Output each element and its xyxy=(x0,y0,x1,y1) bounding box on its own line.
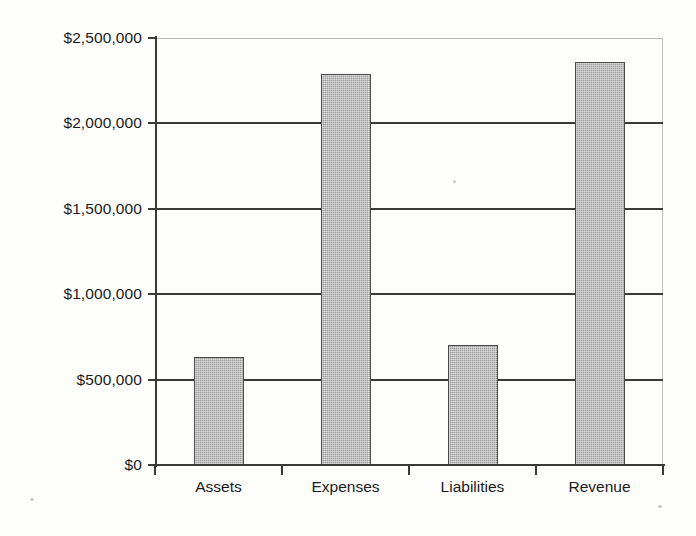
bar-expenses xyxy=(321,74,371,465)
x-tick-label-assets: Assets xyxy=(155,478,282,496)
scan-speck xyxy=(30,498,34,501)
scan-speck xyxy=(658,505,662,508)
y-tick-label: $1,000,000 xyxy=(22,285,142,303)
x-tick-0 xyxy=(154,466,156,475)
x-tick-label-expenses: Expenses xyxy=(282,478,409,496)
y-axis-line xyxy=(155,36,157,467)
plot-area xyxy=(155,38,663,465)
y-tick-label: $0 xyxy=(22,456,142,474)
bar-assets xyxy=(194,357,244,465)
bar-revenue xyxy=(575,62,625,465)
x-tick-label-revenue: Revenue xyxy=(536,478,663,496)
plot-frame-top xyxy=(155,38,663,39)
y-tick-2000000 xyxy=(148,122,157,124)
y-tick-label: $2,500,000 xyxy=(22,29,142,47)
y-tick-label: $1,500,000 xyxy=(22,200,142,218)
x-tick-3 xyxy=(535,466,537,475)
x-tick-label-liabilities: Liabilities xyxy=(409,478,536,496)
y-tick-label: $500,000 xyxy=(22,371,142,389)
x-tick-1 xyxy=(281,466,283,475)
x-tick-2 xyxy=(408,466,410,475)
chart-canvas: $0$500,000$1,000,000$1,500,000$2,000,000… xyxy=(0,0,696,536)
plot-frame-right xyxy=(662,38,663,465)
y-tick-2500000 xyxy=(148,37,157,39)
y-tick-1500000 xyxy=(148,208,157,210)
y-tick-1000000 xyxy=(148,293,157,295)
y-tick-500000 xyxy=(148,379,157,381)
x-tick-4 xyxy=(662,466,664,475)
x-axis-line xyxy=(148,464,665,466)
y-tick-label: $2,000,000 xyxy=(22,114,142,132)
bar-liabilities xyxy=(448,345,498,465)
